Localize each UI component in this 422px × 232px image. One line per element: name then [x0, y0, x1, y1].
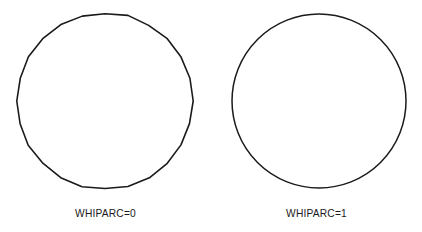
panel-label-whiparc-0: WHIPARC=0 [7, 206, 203, 221]
smooth-circle-path [232, 14, 406, 188]
panel-label-whiparc-1: WHIPARC=1 [218, 206, 414, 221]
polygon-circle-path [17, 14, 193, 189]
polygon-circle-shape [0, 0, 211, 205]
panel-whiparc-0: WHIPARC=0 [0, 0, 211, 232]
figure-canvas: WHIPARC=0 WHIPARC=1 [0, 0, 422, 232]
panel-whiparc-1: WHIPARC=1 [211, 0, 422, 232]
smooth-circle-shape [211, 0, 422, 205]
